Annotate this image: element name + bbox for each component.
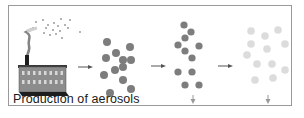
deposited-particles [243,26,289,84]
factory-icon [18,55,69,96]
dispersed-particles [100,38,135,97]
caption-production-of-aerosols: Production of aerosols [13,92,140,106]
arrow-right-icon [78,65,93,69]
arrow-right-icon [218,64,233,68]
arrow-down-icon [191,95,196,104]
arrow-down-icon [266,95,271,104]
settling-particles [174,21,202,88]
arrow-right-icon [151,64,166,68]
emission-dots [35,18,81,39]
